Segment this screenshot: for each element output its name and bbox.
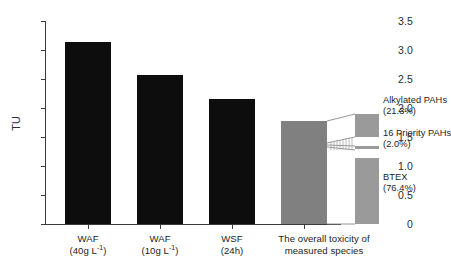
x-category-label-overall-toxicity-line1: The overall toxicity of	[244, 233, 404, 245]
x-category-label-waf-10g: WAF (10g L-1)	[120, 233, 200, 256]
annotation-alkylated-pahs-name: Alkylated PAHs	[383, 95, 447, 105]
stack-gap-2	[355, 149, 379, 158]
annotation-btex: BTEX (76.4%)	[383, 172, 416, 195]
annotation-16-priority-pahs-name: 16 Priority PAHs	[383, 128, 451, 138]
stack-gap-1	[355, 137, 379, 146]
stack-segment-alkylated-pahs[interactable]	[355, 114, 379, 137]
annotation-alkylated-pahs-percent: (21.3%)	[383, 106, 447, 117]
stack-segment-btex[interactable]	[355, 158, 379, 224]
x-category-label-overall-toxicity: The overall toxicity of measured species	[244, 233, 404, 256]
x-category-label-overall-toxicity-line2: measured species	[244, 245, 404, 257]
annotation-btex-name: BTEX	[383, 172, 407, 182]
x-category-label-waf-40g: WAF (40g L-1)	[48, 233, 128, 256]
x-category-label-waf-10g-line2: (10g L-1)	[120, 245, 200, 257]
x-category-label-waf-40g-line2: (40g L-1)	[48, 245, 128, 257]
annotation-16-priority-pahs: 16 Priority PAHs (2.0%)	[383, 128, 451, 151]
annotation-16-priority-pahs-percent: (2.0%)	[383, 139, 451, 150]
x-category-label-waf-40g-line1: WAF	[48, 233, 128, 245]
annotation-btex-percent: (76.4%)	[383, 183, 416, 194]
x-category-label-waf-10g-line1: WAF	[120, 233, 200, 245]
annotation-alkylated-pahs: Alkylated PAHs (21.3%)	[383, 95, 447, 118]
exploded-stack	[355, 114, 379, 224]
